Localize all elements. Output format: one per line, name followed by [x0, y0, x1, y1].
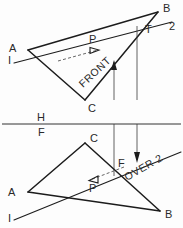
reference-label-f: F [38, 126, 45, 138]
top-view-group: A B C P T I 2 FRONT [8, 2, 175, 114]
bottom-view-label-line-start: I [8, 212, 11, 224]
descriptive-geometry-drawing: A B C P T I 2 FRONT H F [0, 0, 183, 228]
bottom-view-edge-ac [28, 143, 85, 192]
top-view-label-line-start: I [8, 54, 11, 66]
reference-label-h: H [37, 111, 45, 123]
bottom-view-edge-ba [28, 192, 160, 211]
top-view-label-t: T [145, 23, 152, 35]
top-view-label-c: C [88, 102, 96, 114]
bottom-view-label-c: C [90, 132, 98, 144]
bottom-view-label-f: F [118, 157, 125, 169]
top-view-label-p: P [89, 33, 97, 45]
technical-drawing-canvas: A B C P T I 2 FRONT H F [0, 0, 183, 228]
bottom-view-annotation-over-2: OVER 2 [122, 151, 164, 182]
top-view-p-leader [58, 50, 98, 61]
bottom-view-label-a: A [8, 186, 16, 198]
top-view-label-a: A [9, 42, 17, 54]
top-view-label-line-end: 2 [169, 20, 175, 32]
bottom-view-label-p: P [89, 182, 97, 194]
top-view-label-b: B [163, 2, 171, 14]
bottom-view-label-b: B [165, 208, 173, 220]
bottom-view-group: A B C P F I OVER 2 [8, 124, 181, 224]
